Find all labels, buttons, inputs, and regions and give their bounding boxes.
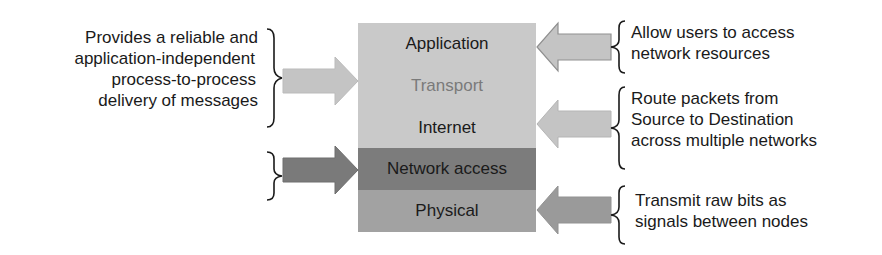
- desc-line: Route packets from: [631, 88, 817, 109]
- layer-internet: Internet: [358, 107, 536, 148]
- layer-application: Application: [358, 23, 536, 65]
- layer-physical: Physical: [358, 190, 536, 232]
- desc-line: across multiple networks: [631, 130, 817, 151]
- left-brace-icon: [608, 20, 628, 74]
- arrow-left-icon: [536, 185, 612, 235]
- desc-line: process-to-process: [0, 69, 258, 90]
- internet-description: Route packets from Source to Destination…: [631, 88, 817, 151]
- layer-physical-label: Physical: [415, 201, 478, 221]
- desc-line: network resources: [631, 43, 794, 64]
- desc-line: Allow users to access: [631, 22, 794, 43]
- arrow-right-icon: [283, 56, 359, 106]
- desc-line: Transmit raw bits as: [635, 190, 808, 211]
- transport-description: Provides a reliable and application-inde…: [0, 27, 258, 111]
- layer-transport: Transport: [358, 65, 536, 107]
- right-brace-icon: [264, 151, 284, 201]
- desc-line: Provides a reliable and: [0, 27, 258, 48]
- layer-network-access-label: Network access: [387, 159, 507, 179]
- left-brace-icon: [608, 185, 628, 245]
- desc-line: application-independent: [0, 48, 258, 69]
- left-brace-icon: [608, 86, 628, 170]
- application-description: Allow users to access network resources: [631, 22, 794, 64]
- desc-line: delivery of messages: [0, 90, 258, 111]
- arrow-left-icon: [536, 22, 612, 72]
- arrow-left-icon: [536, 99, 612, 149]
- layer-network-access: Network access: [358, 148, 536, 190]
- desc-line: Source to Destination: [631, 109, 817, 130]
- physical-description: Transmit raw bits as signals between nod…: [635, 190, 808, 232]
- right-brace-icon: [264, 28, 284, 128]
- layer-internet-label: Internet: [418, 118, 476, 138]
- protocol-stack: Application Transport Internet Network a…: [358, 23, 536, 232]
- arrow-right-icon: [283, 145, 359, 195]
- desc-line: signals between nodes: [635, 211, 808, 232]
- layer-application-label: Application: [405, 34, 488, 54]
- layer-transport-label: Transport: [411, 76, 483, 96]
